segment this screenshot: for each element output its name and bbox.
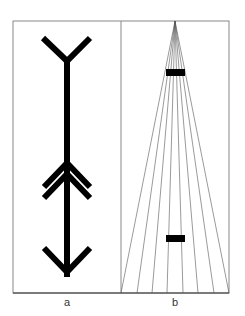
panel-b-converging-lines (121, 21, 229, 293)
converging-ray-1 (121, 21, 175, 293)
arrow-tail-fork (43, 38, 90, 61)
converging-ray-3 (152, 21, 175, 293)
converging-ray-5 (175, 21, 183, 293)
upper-bar (166, 69, 185, 76)
panel-a-arrow (43, 38, 90, 277)
panel-a-label: a (64, 297, 70, 308)
illusion-figure (0, 0, 245, 316)
panel-b-label: b (172, 297, 178, 308)
converging-ray-8 (175, 21, 229, 293)
converging-ray-4 (167, 21, 175, 293)
converging-ray-2 (137, 21, 175, 293)
lower-bar (166, 235, 185, 242)
